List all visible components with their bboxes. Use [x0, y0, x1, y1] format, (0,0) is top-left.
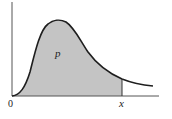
shaded-area-p	[12, 20, 122, 96]
x-marker-label: x	[118, 97, 124, 109]
density-diagram: 0 x p	[0, 0, 172, 119]
area-label-p: p	[54, 47, 61, 59]
origin-label: 0	[8, 98, 13, 109]
